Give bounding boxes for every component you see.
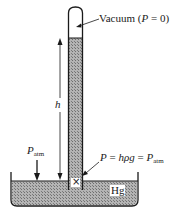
vacuum-label: Vacuum (P = 0) <box>99 13 169 24</box>
pressure-equation: P = hρg = Patm <box>100 152 164 163</box>
mercury-column <box>69 38 82 190</box>
arrow-head-icon <box>76 24 82 28</box>
barometer-diagram <box>0 0 194 213</box>
mercury-label: Hg <box>110 185 125 196</box>
height-label: h <box>55 99 61 110</box>
point-marker-icon: × <box>72 177 80 187</box>
patm-label: Patm <box>27 145 44 156</box>
